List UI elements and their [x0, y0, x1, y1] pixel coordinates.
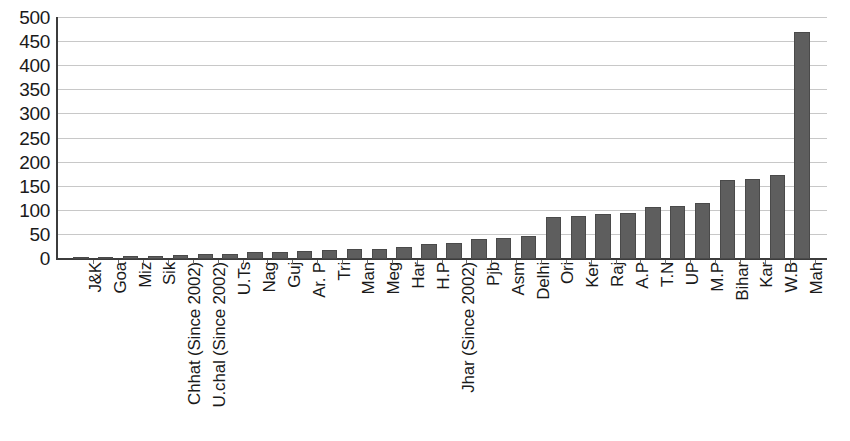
- x-tick-label: Bihar: [734, 262, 751, 301]
- y-tick-label: 450: [0, 32, 50, 51]
- x-tick-mark: [740, 260, 741, 264]
- bar: [123, 256, 138, 259]
- bar: [198, 254, 213, 259]
- y-tick-label: 350: [0, 80, 50, 99]
- x-tick-mark: [640, 260, 641, 264]
- bars-layer: [56, 17, 827, 259]
- bar: [645, 207, 660, 259]
- x-tick-mark: [541, 260, 542, 264]
- x-tick-label: Guj: [286, 262, 303, 288]
- bar: [794, 32, 809, 259]
- bar: [347, 249, 362, 259]
- bar: [620, 213, 635, 259]
- x-tick-mark: [690, 260, 691, 264]
- bar: [173, 255, 188, 259]
- bar: [496, 238, 511, 259]
- x-tick-label: Pjb: [485, 262, 502, 286]
- y-tick-label: 500: [0, 8, 50, 27]
- x-tick-label: Ori: [559, 262, 576, 284]
- x-tick-label: Sik: [161, 262, 178, 285]
- x-tick-mark: [317, 260, 318, 264]
- bar: [571, 216, 586, 259]
- x-tick-label: U.chal (Since 2002): [211, 262, 228, 408]
- x-tick-label: Raj: [609, 262, 626, 287]
- x-tick-mark: [392, 260, 393, 264]
- x-tick-label: Har: [410, 262, 427, 289]
- x-tick-mark: [442, 260, 443, 264]
- x-tick-mark: [715, 260, 716, 264]
- x-tick-label: UP: [684, 262, 701, 285]
- bar: [745, 179, 760, 259]
- y-tick-label: 200: [0, 153, 50, 172]
- x-tick-label: Miz: [137, 262, 154, 288]
- x-tick-mark: [566, 260, 567, 264]
- x-tick-mark: [267, 260, 268, 264]
- x-tick-label: Ker: [584, 262, 601, 288]
- y-tick-label: 300: [0, 104, 50, 123]
- x-tick-mark: [292, 260, 293, 264]
- x-tick-mark: [616, 260, 617, 264]
- y-tick-label: 400: [0, 56, 50, 75]
- x-tick-label: Jhar (Since 2002): [460, 262, 477, 393]
- x-tick-mark: [118, 260, 119, 264]
- x-tick-label: Meg: [385, 262, 402, 294]
- bar: [322, 250, 337, 259]
- bar: [297, 251, 312, 259]
- x-tick-label: Kar: [758, 262, 775, 288]
- x-tick-mark: [93, 260, 94, 264]
- y-axis: 500450400350300250200150100500: [0, 0, 50, 262]
- x-tick-label: Delhi: [535, 262, 552, 300]
- x-tick-mark: [342, 260, 343, 264]
- bar: [247, 252, 262, 259]
- bar-chart: 500450400350300250200150100500 J&KGoaMiz…: [0, 0, 850, 441]
- bar: [421, 244, 436, 259]
- bar: [770, 175, 785, 259]
- bar: [372, 249, 387, 259]
- x-tick-mark: [193, 260, 194, 264]
- x-tick-mark: [516, 260, 517, 264]
- bar: [471, 239, 486, 259]
- y-tick-label: 150: [0, 177, 50, 196]
- y-tick-label: 100: [0, 201, 50, 220]
- x-tick-label: Ar. P: [311, 262, 328, 298]
- bar: [272, 252, 287, 259]
- y-tick-label: 250: [0, 129, 50, 148]
- x-tick-mark: [765, 260, 766, 264]
- x-tick-mark: [665, 260, 666, 264]
- x-tick-mark: [218, 260, 219, 264]
- bar: [695, 203, 710, 259]
- x-tick-label: U.Ts: [236, 262, 253, 295]
- x-tick-mark: [491, 260, 492, 264]
- x-tick-label: Chhat (Since 2002): [186, 262, 203, 405]
- bar: [546, 217, 561, 259]
- bar: [720, 180, 735, 259]
- bar: [148, 256, 163, 259]
- x-tick-label: W.B: [783, 262, 800, 293]
- x-tick-label: H.P: [435, 262, 452, 290]
- x-tick-label: Man: [360, 262, 377, 294]
- x-tick-mark: [790, 260, 791, 264]
- x-tick-mark: [143, 260, 144, 264]
- x-tick-mark: [243, 260, 244, 264]
- x-tick-mark: [417, 260, 418, 264]
- x-tick-label: Nag: [261, 262, 278, 293]
- x-tick-label: Tri: [336, 262, 353, 281]
- bar: [222, 254, 237, 259]
- bar: [396, 247, 411, 259]
- x-tick-mark: [367, 260, 368, 264]
- bar: [670, 206, 685, 260]
- x-tick-label: M.P: [709, 262, 726, 292]
- x-tick-label: Goa: [112, 262, 129, 294]
- y-tick-label: 0: [0, 249, 50, 268]
- bar: [73, 257, 88, 259]
- x-tick-label: Asm: [510, 262, 527, 295]
- bar: [521, 236, 536, 259]
- bar: [98, 257, 113, 259]
- x-tick-label: A.P: [634, 262, 651, 289]
- x-axis: J&KGoaMizSikChhat (Since 2002)U.chal (Si…: [56, 262, 827, 440]
- x-tick-mark: [591, 260, 592, 264]
- x-tick-label: J&K: [87, 262, 104, 293]
- bar: [446, 243, 461, 259]
- y-tick-label: 50: [0, 225, 50, 244]
- x-tick-label: Mah: [808, 262, 825, 294]
